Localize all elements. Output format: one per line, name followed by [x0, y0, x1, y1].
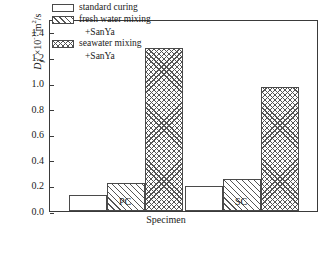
legend-swatch-plain-icon — [52, 4, 74, 12]
legend-item-seawater-mixing: seawater mixing — [52, 38, 164, 50]
legend-swatch-diagonal-hatch-icon — [52, 16, 74, 24]
y-tick-mark — [50, 136, 54, 137]
legend-label-fresh-water-mixing: fresh water mixing — [79, 14, 151, 26]
y-axis-units-exponent: 2 — [30, 20, 37, 23]
y-tick-mark — [50, 161, 54, 162]
legend-item-standard-curing: standard curing — [52, 2, 164, 14]
legend-label-seawater-mixing-continued: +SanYa — [52, 50, 164, 62]
legend-item-fresh-water-mixing: fresh water mixing — [52, 14, 164, 26]
y-tick-text: 1.0 — [32, 78, 45, 89]
bar-sc-seawater-mixing-sanya — [261, 87, 299, 211]
y-tick-text: 0.2 — [32, 180, 45, 191]
y-tick-text: 0.8 — [32, 104, 45, 115]
y-tick-mark — [50, 110, 54, 111]
chart-legend: standard curing fresh water mixing +SanY… — [52, 2, 164, 62]
chart-figure: Df/ ×10-11m2/s 0.00.20.40.60.81.01.21.4 … — [0, 0, 332, 264]
x-tick-label-pc: PC — [105, 196, 145, 207]
legend-label-fresh-water-mixing-continued: +SanYa — [52, 26, 164, 38]
bar-pc-seawater-mixing-sanya — [145, 48, 183, 211]
bar-pc-standard-curing — [69, 195, 107, 211]
legend-swatch-cross-hatch-icon — [52, 40, 74, 48]
y-tick-text: 0.4 — [32, 155, 45, 166]
y-tick-text: 0.6 — [32, 129, 45, 140]
y-tick-mark — [50, 85, 54, 86]
legend-label-standard-curing: standard curing — [79, 2, 138, 14]
legend-label-seawater-mixing: seawater mixing — [79, 38, 142, 50]
y-tick-text: 1.2 — [32, 52, 45, 63]
x-tick-label-sc: SC — [221, 196, 261, 207]
x-axis-label: Specimen — [0, 214, 332, 225]
y-tick-text: 1.4 — [32, 27, 45, 38]
bar-sc-standard-curing — [185, 186, 223, 211]
y-axis-symbol: D — [32, 63, 43, 70]
y-axis-units-tail: /s — [32, 14, 43, 21]
y-tick-mark — [50, 187, 54, 188]
